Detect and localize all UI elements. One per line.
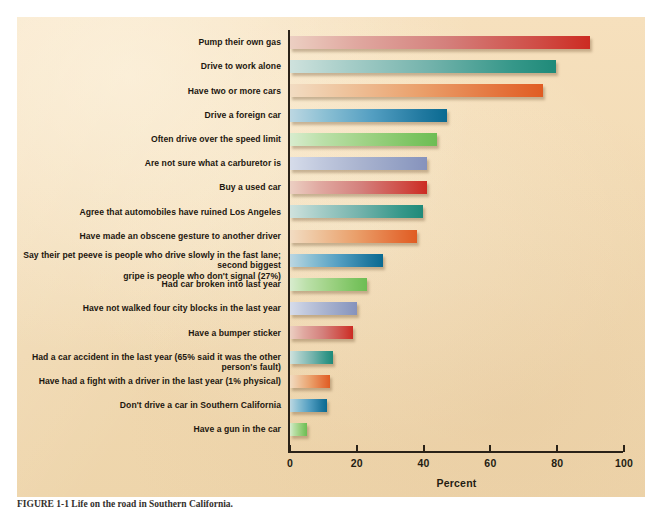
figure-panel: Pump their own gasDrive to work aloneHav…: [17, 17, 645, 497]
bar-fill: [290, 157, 427, 170]
bar-category-label: Drive to work alone: [17, 61, 281, 71]
bar-fill: [290, 375, 330, 388]
bar: [290, 326, 353, 339]
bar-fill: [290, 109, 447, 122]
x-tick-label: 100: [604, 457, 644, 469]
bar-fill: [290, 84, 543, 97]
bar-category-label: Have a gun in the car: [17, 424, 281, 434]
bar: [290, 230, 417, 243]
x-tick-label: 0: [270, 457, 310, 469]
bar-fill: [290, 254, 383, 267]
x-tick-mark: [623, 445, 625, 452]
bar-category-label: Have two or more cars: [17, 86, 281, 96]
x-tick-mark: [489, 445, 491, 452]
bar-category-label: Pump their own gas: [17, 37, 281, 47]
bar-fill: [290, 230, 417, 243]
bar-category-label: Buy a used car: [17, 182, 281, 192]
bar-category-label: Often drive over the speed limit: [17, 134, 281, 144]
bar-fill: [290, 133, 437, 146]
bar-row: Don't drive a car in Southern California: [17, 394, 645, 418]
bar-fill: [290, 326, 353, 339]
bar-fill: [290, 205, 423, 218]
bar-row: Have had a fight with a driver in the la…: [17, 370, 645, 394]
chart-plot-area: Pump their own gasDrive to work aloneHav…: [17, 17, 645, 497]
bar-category-label: Drive a foreign car: [17, 110, 281, 120]
bar-category-label: Have made an obscene gesture to another …: [17, 231, 281, 241]
bar-category-label: Have not walked four city blocks in the …: [17, 303, 281, 313]
bar-row: Agree that automobiles have ruined Los A…: [17, 200, 645, 224]
bar: [290, 36, 590, 49]
bar: [290, 84, 543, 97]
bar: [290, 254, 383, 267]
bar-fill: [290, 36, 590, 49]
x-tick-label: 80: [537, 457, 577, 469]
bar: [290, 423, 307, 436]
bar-fill: [290, 181, 427, 194]
bar-fill: [290, 423, 307, 436]
x-axis-line: [288, 451, 623, 453]
bar-row: Have a gun in the car: [17, 418, 645, 442]
bar: [290, 399, 327, 412]
bar-category-label: Are not sure what a carburetor is: [17, 158, 281, 168]
bar-fill: [290, 60, 556, 73]
bar-fill: [290, 278, 367, 291]
bar-category-label: Don't drive a car in Southern California: [17, 400, 281, 410]
bar: [290, 133, 437, 146]
bar-row: Buy a used car: [17, 176, 645, 200]
bar: [290, 181, 427, 194]
bar-row: Have two or more cars: [17, 79, 645, 103]
bar: [290, 205, 423, 218]
x-tick-label: 40: [404, 457, 444, 469]
x-tick-label: 20: [337, 457, 377, 469]
bar-row: Have made an obscene gesture to another …: [17, 225, 645, 249]
bar: [290, 109, 447, 122]
figure-caption: FIGURE 1-1 Life on the road in Southern …: [17, 499, 637, 509]
bar-row: Drive a foreign car: [17, 104, 645, 128]
bar-row: Had car broken into last year: [17, 273, 645, 297]
bar-category-label: Agree that automobiles have ruined Los A…: [17, 207, 281, 217]
bar-fill: [290, 351, 333, 364]
bar-category-label: Had car broken into last year: [17, 279, 281, 289]
bar-row: Pump their own gas: [17, 31, 645, 55]
bar: [290, 60, 556, 73]
bar: [290, 278, 367, 291]
x-tick-mark: [289, 445, 291, 452]
x-axis-title: Percent: [288, 477, 625, 489]
bar: [290, 375, 330, 388]
bar-fill: [290, 399, 327, 412]
bar: [290, 302, 357, 315]
bar-row: Often drive over the speed limit: [17, 128, 645, 152]
bar-category-label: Have a bumper sticker: [17, 328, 281, 338]
bar-row: Have a bumper sticker: [17, 321, 645, 345]
bar-category-label: Have had a fight with a driver in the la…: [17, 376, 281, 386]
bar: [290, 157, 427, 170]
bar-row: Are not sure what a carburetor is: [17, 152, 645, 176]
bar-row: Had a car accident in the last year (65%…: [17, 346, 645, 370]
bar-row: Say their pet peeve is people who drive …: [17, 249, 645, 273]
bar: [290, 351, 333, 364]
x-tick-mark: [423, 445, 425, 452]
bar-fill: [290, 302, 357, 315]
bar-row: Drive to work alone: [17, 55, 645, 79]
x-tick-label: 60: [470, 457, 510, 469]
x-tick-mark: [556, 445, 558, 452]
x-tick-mark: [356, 445, 358, 452]
bar-row: Have not walked four city blocks in the …: [17, 297, 645, 321]
